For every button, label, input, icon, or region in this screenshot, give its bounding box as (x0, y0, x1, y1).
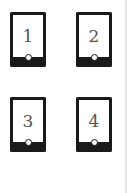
device-number: 1 (13, 26, 43, 46)
device-2[interactable]: 2 (76, 12, 112, 67)
device-3[interactable]: 3 (10, 97, 46, 152)
device-bottom-bar (76, 142, 112, 152)
device-number: 2 (79, 26, 109, 46)
device-bottom-bar (76, 57, 112, 67)
device-bottom-bar (10, 142, 46, 152)
home-button-icon (25, 54, 32, 61)
home-button-icon (91, 54, 98, 61)
device-1[interactable]: 1 (10, 12, 46, 67)
device-bottom-bar (10, 57, 46, 67)
panel-edge-divider (125, 0, 127, 193)
device-number: 4 (79, 111, 109, 131)
device-4[interactable]: 4 (76, 97, 112, 152)
home-button-icon (25, 139, 32, 146)
home-button-icon (91, 139, 98, 146)
device-number: 3 (13, 111, 43, 131)
